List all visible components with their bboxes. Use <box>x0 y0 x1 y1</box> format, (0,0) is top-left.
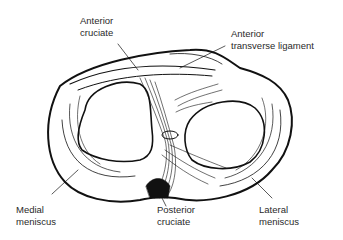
label-lateral-meniscus: Lateral meniscus <box>259 204 299 228</box>
leader-lateral-meniscus <box>252 178 272 198</box>
label-line: Anterior <box>231 28 314 40</box>
label-anterior-transverse-ligament: Anterior transverse ligament <box>231 28 314 52</box>
label-medial-meniscus: Medial meniscus <box>16 204 56 228</box>
label-line: Posterior <box>157 204 195 216</box>
label-anterior-cruciate: Anterior cruciate <box>80 15 113 39</box>
label-line: transverse ligament <box>231 40 314 52</box>
label-posterior-cruciate: Posterior cruciate <box>157 204 195 228</box>
label-line: Lateral <box>259 204 299 216</box>
label-line: Medial <box>16 204 56 216</box>
label-line: cruciate <box>80 27 113 39</box>
lateral-condyle <box>185 101 264 168</box>
medial-condyle <box>78 82 153 161</box>
label-line: Anterior <box>80 15 113 27</box>
label-line: meniscus <box>259 216 299 228</box>
label-line: meniscus <box>16 216 56 228</box>
label-line: cruciate <box>157 216 195 228</box>
